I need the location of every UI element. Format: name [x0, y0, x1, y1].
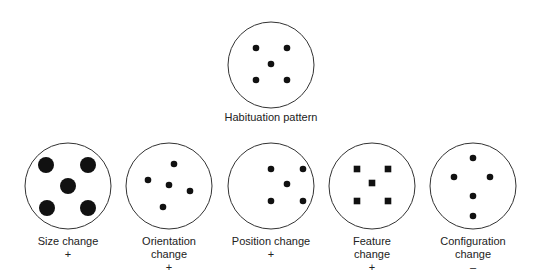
dot-element [39, 200, 55, 216]
configuration-change-label: Configuration change – [418, 235, 528, 274]
dot-element [451, 174, 458, 181]
dot-element [284, 77, 291, 84]
dot-element [300, 198, 307, 205]
dot-element [268, 198, 275, 205]
dot-element [284, 45, 291, 52]
dot-element [268, 61, 275, 68]
dot-element [268, 166, 275, 173]
feature-change-label: Feature change + [317, 235, 427, 274]
dot-element [60, 178, 76, 194]
habituation-pattern-panel [228, 22, 314, 108]
dot-element [253, 45, 260, 52]
dot-element [80, 157, 96, 173]
dot-element [470, 155, 477, 162]
dot-element [145, 177, 152, 184]
square-element [369, 180, 376, 187]
dot-element [166, 182, 173, 189]
habituation-pattern-label: Habituation pattern [216, 111, 326, 124]
dot-element [253, 77, 260, 84]
dot-element [187, 188, 194, 195]
dot-element [80, 200, 96, 216]
dot-element [300, 166, 307, 173]
square-element [354, 198, 361, 205]
dot-element [160, 204, 167, 211]
orientation-change-panel [126, 143, 212, 229]
feature-change-panel [329, 143, 415, 229]
dot-element [171, 161, 178, 168]
square-element [354, 166, 361, 173]
dot-element [38, 157, 54, 173]
size-change-panel [25, 143, 111, 229]
configuration-change-panel [430, 143, 516, 229]
dot-element [470, 213, 477, 220]
dot-element [487, 174, 494, 181]
square-element [385, 166, 392, 173]
dot-element [470, 193, 477, 200]
square-element [385, 198, 392, 205]
stimulus-circle [228, 143, 314, 229]
size-change-label: Size change + [13, 235, 123, 261]
position-change-label: Position change + [216, 235, 326, 261]
position-change-panel [228, 143, 314, 229]
orientation-change-label: Orientation change + [114, 235, 224, 274]
dot-element [284, 181, 291, 188]
